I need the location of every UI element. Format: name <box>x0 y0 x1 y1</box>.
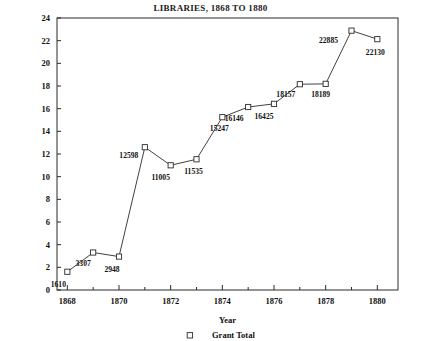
y-axis-tick-label: 24 <box>42 13 51 23</box>
data-point-marker <box>91 250 96 255</box>
data-point-marker <box>168 163 173 168</box>
data-point-label: 22130 <box>366 48 385 57</box>
y-axis-tick-label: 6 <box>46 217 50 227</box>
data-point-label: 18189 <box>311 90 330 99</box>
x-axis-tick-label: 1878 <box>317 296 334 306</box>
data-point-label: 3307 <box>76 259 91 268</box>
data-point-marker <box>349 28 354 33</box>
plot-frame <box>57 18 398 290</box>
legend-label-grant-total: Grant Total <box>212 330 255 340</box>
data-point-label: 15247 <box>210 124 229 133</box>
data-point-marker <box>116 254 121 259</box>
y-axis-tick-label: 12 <box>42 149 51 159</box>
y-axis-tick-label: 8 <box>46 194 50 204</box>
data-point-label: 12598 <box>119 151 138 160</box>
data-point-marker <box>142 145 147 150</box>
data-point-marker <box>297 82 302 87</box>
y-axis-tick-label: 4 <box>46 240 51 250</box>
data-line-grant-total <box>67 31 377 272</box>
line-chart-plot: 0246810121416182022241868187018721874187… <box>0 0 421 341</box>
data-point-label: 16146 <box>225 114 244 123</box>
x-axis-tick-label: 1874 <box>214 296 232 306</box>
data-point-label: 1610 <box>51 280 66 289</box>
data-point-label: 18157 <box>276 90 295 99</box>
data-point-label: 11005 <box>151 173 170 182</box>
chart-container: LIBRARIES, 1868 TO 1880 0246810121416182… <box>0 0 421 341</box>
data-point-marker <box>375 37 380 42</box>
x-axis-title: Year <box>219 315 236 325</box>
y-axis-tick-label: 2 <box>46 262 50 272</box>
x-axis-tick-label: 1876 <box>266 296 283 306</box>
data-point-label: 2948 <box>104 265 119 274</box>
y-axis-tick-label: 22 <box>42 36 51 46</box>
data-point-label: 16425 <box>255 112 274 121</box>
x-axis-tick-label: 1880 <box>369 296 386 306</box>
y-axis-tick-label: 14 <box>42 126 51 136</box>
data-point-label: 11535 <box>184 167 203 176</box>
data-point-marker <box>271 101 276 106</box>
y-axis-tick-label: 16 <box>42 104 51 114</box>
chart-title: LIBRARIES, 1868 TO 1880 <box>0 3 421 13</box>
y-axis-tick-label: 20 <box>42 58 51 68</box>
x-axis-tick-label: 1868 <box>59 296 76 306</box>
x-axis-tick-label: 1870 <box>111 296 128 306</box>
data-point-marker <box>246 104 251 109</box>
data-point-marker <box>194 157 199 162</box>
data-point-label: 22885 <box>319 36 338 45</box>
y-axis-tick-label: 18 <box>42 81 51 91</box>
y-axis-tick-label: 0 <box>46 285 50 295</box>
legend-marker-grant-total <box>187 333 192 338</box>
data-point-marker <box>323 81 328 86</box>
x-axis-tick-label: 1872 <box>162 296 179 306</box>
data-point-marker <box>65 269 70 274</box>
y-axis-tick-label: 10 <box>42 172 51 182</box>
